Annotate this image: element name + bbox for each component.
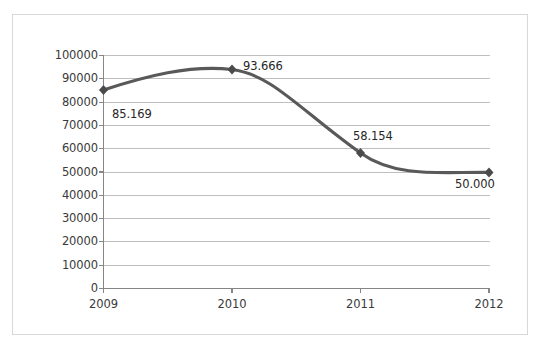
x-axis-ticks <box>104 289 490 294</box>
y-tick-30000: 30000 <box>40 213 98 224</box>
y-tick-20000: 20000 <box>40 236 98 247</box>
y-tick-80000: 80000 <box>40 97 98 108</box>
x-tick-2012: 2012 <box>459 297 519 311</box>
data-point-2010[interactable] <box>228 65 237 75</box>
x-tick-2010: 2010 <box>202 297 262 311</box>
data-point-2009[interactable] <box>99 85 108 95</box>
y-tick-60000: 60000 <box>40 143 98 154</box>
data-label-2012: 50.000 <box>455 177 495 191</box>
y-tick-50000: 50000 <box>40 167 98 178</box>
data-line <box>104 68 490 172</box>
data-markers <box>99 65 494 178</box>
data-point-2012[interactable] <box>485 167 494 177</box>
y-tick-90000: 90000 <box>40 73 98 84</box>
y-tick-10000: 10000 <box>40 260 98 271</box>
gridlines <box>104 56 491 266</box>
data-label-2009: 85.169 <box>112 107 152 121</box>
data-label-2010: 93.666 <box>243 59 283 73</box>
y-tick-70000: 70000 <box>40 120 98 131</box>
y-tick-40000: 40000 <box>40 190 98 201</box>
y-tick-100000: 100000 <box>40 50 98 61</box>
data-label-2011: 58.154 <box>353 129 393 143</box>
y-tick-0: 0 <box>40 283 98 294</box>
line-chart: 100000 90000 80000 70000 60000 50000 400… <box>0 0 551 352</box>
x-tick-2009: 2009 <box>74 297 134 311</box>
x-tick-2011: 2011 <box>331 297 391 311</box>
